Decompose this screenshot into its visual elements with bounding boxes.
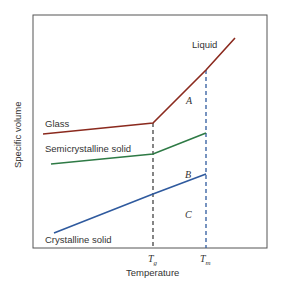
tm-tick-label: Tm bbox=[200, 253, 211, 267]
region-b-label: B bbox=[185, 169, 191, 180]
region-c-label: C bbox=[185, 209, 192, 220]
semicrystalline-label: Semicrystalline solid bbox=[45, 143, 131, 154]
region-a-label: A bbox=[185, 95, 193, 106]
crystalline-curve bbox=[54, 174, 206, 233]
glass-label: Glass bbox=[45, 118, 70, 129]
tg-tick-label: Tg bbox=[148, 253, 158, 267]
crystalline-label: Crystalline solid bbox=[45, 234, 112, 245]
volume-temperature-diagram: Glass Liquid Semicrystalline solid Cryst… bbox=[0, 0, 281, 289]
x-axis-title: Temperature bbox=[126, 267, 179, 278]
y-axis-title: Specific volume bbox=[12, 101, 23, 168]
liquid-label: Liquid bbox=[192, 39, 217, 50]
